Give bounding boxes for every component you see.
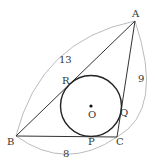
label-o: O: [88, 109, 96, 120]
geometry-diagram: A B C O P Q R 13 9 8: [0, 0, 155, 164]
length-ac: 9: [138, 73, 144, 84]
label-r: R: [62, 75, 70, 86]
label-b: B: [7, 136, 14, 147]
length-bc: 8: [63, 148, 69, 159]
label-a: A: [131, 8, 140, 19]
length-ab: 13: [59, 54, 72, 65]
label-p: P: [88, 136, 95, 147]
label-c: C: [116, 136, 124, 147]
label-q: Q: [120, 107, 128, 118]
center-dot: [89, 104, 92, 107]
